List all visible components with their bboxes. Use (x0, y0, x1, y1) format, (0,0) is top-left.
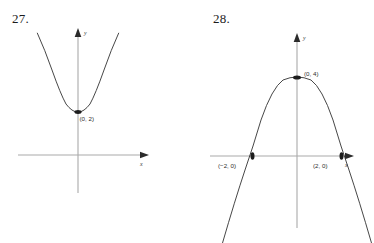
left-root-point-marker-28 (251, 152, 255, 160)
x-axis-label-28: x (344, 162, 348, 168)
x-axis-arrow-icon-27 (140, 152, 149, 159)
y-axis-arrow-icon-27 (75, 28, 82, 37)
point-label-right-root-28: (2, 0) (313, 162, 327, 169)
vertex-point-marker-27 (74, 110, 81, 114)
point-label-vertex-28: (0, 4) (304, 70, 318, 77)
y-axis-label-27: y (83, 30, 87, 36)
x-axis-label-27: x (139, 161, 143, 167)
vertex-point-marker-28 (293, 76, 301, 80)
figure-28: 28. y x (0, 4) (−2, 0) (2, 0) (187, 0, 374, 243)
point-label-left-root-28: (−2, 0) (218, 162, 236, 169)
figure-27: 27. y x (0, 2) (0, 0, 187, 243)
point-label-vertex-27: (0, 2) (80, 115, 94, 122)
graph-27-plot: y x (0, 2) (0, 0, 187, 243)
x-axis-arrow-icon-28 (345, 153, 354, 160)
graph-28-plot: y x (0, 4) (−2, 0) (2, 0) (187, 0, 374, 243)
y-axis-arrow-icon-28 (294, 33, 301, 42)
y-axis-label-28: y (302, 35, 306, 41)
right-root-point-marker-28 (340, 152, 344, 160)
